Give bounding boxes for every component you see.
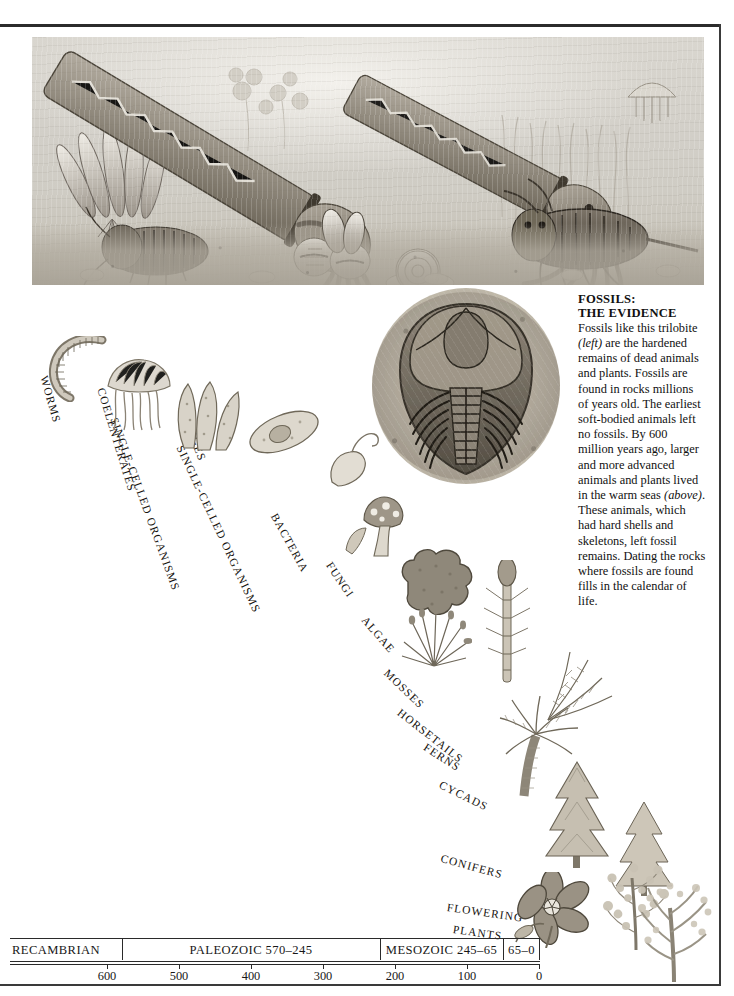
timeline-divider-end (539, 938, 540, 960)
single-celled-organism-illustration (246, 404, 322, 460)
timeline-tick-label-400: 400 (242, 969, 261, 984)
geological-timeline: RECAMBRIAN PALEOZOIC 570–245 MESOZOIC 24… (0, 938, 560, 988)
conifer-tree-illustration (540, 760, 614, 868)
page-root: FOSSILS: THE EVIDENCE Fossils like this … (0, 0, 734, 996)
jellyfish-illustration (104, 356, 176, 432)
timeline-era-paleozoic: PALEOZOIC 570–245 (122, 941, 380, 959)
timeline-tick-label-500: 500 (170, 969, 189, 984)
flowering-plant-illustration (506, 872, 598, 948)
timeline-tick-label-0: 0 (536, 969, 542, 984)
timeline-axis-line (10, 964, 540, 965)
horsetail-illustration (480, 560, 534, 684)
page-top-rule (0, 24, 721, 27)
timeline-tick-label-300: 300 (314, 969, 333, 984)
timeline-tick-label-200: 200 (386, 969, 405, 984)
timeline-tick-label-100: 100 (458, 969, 477, 984)
warm-seas-illustration (32, 37, 704, 285)
caption-italic-above: (above) (664, 488, 702, 502)
moss-illustration (398, 608, 472, 670)
flagellate-organism-illustration (318, 428, 384, 494)
timeline-era-precambrian: RECAMBRIAN (12, 941, 120, 959)
timeline-era-mesozoic: MESOZOIC 245–65 (380, 941, 503, 959)
sponge-illustration (172, 380, 246, 452)
page-right-rule (719, 24, 721, 986)
deciduous-tree-illustration (630, 880, 720, 984)
timeline-tick-label-600: 600 (98, 969, 117, 984)
timeline-era-cenozoic: 65–0 (503, 941, 540, 959)
worm-illustration (38, 336, 112, 402)
sea-floor-texture (32, 223, 704, 285)
